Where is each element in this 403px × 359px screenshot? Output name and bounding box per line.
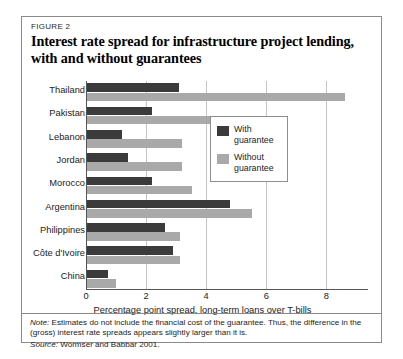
figure-title: Interest rate spread for infrastructure … (31, 33, 376, 66)
chart-legend: With guarantee Without guarantee (210, 116, 288, 182)
chart-row: Côte d'Ivoire (22, 244, 383, 267)
chart-row: China (22, 267, 383, 290)
chart-row: Thailand (22, 81, 383, 104)
bar-with-guarantee (87, 153, 128, 162)
x-tick-label-0: 0 (76, 291, 96, 301)
footer-divider (22, 313, 381, 314)
legend-label-without-line1: Without (234, 152, 264, 162)
legend-label-without: Without guarantee (234, 152, 292, 173)
category-label: China (0, 271, 85, 281)
category-label: Côte d'Ivoire (0, 248, 85, 258)
figure-title-line-1: Interest rate spread for infrastructure … (31, 33, 354, 49)
chart-plot-area: ThailandPakistanLebanonJordanMoroccoArge… (22, 79, 383, 314)
chart-row: Lebanon (22, 128, 383, 151)
chart-row: Jordan (22, 151, 383, 174)
bar-without-guarantee (87, 209, 252, 218)
category-label: Morocco (0, 178, 85, 188)
figure-number: FIGURE 2 (31, 22, 70, 31)
x-tick-label-6: 6 (256, 291, 276, 301)
figure-title-line-2: with and without guarantees (31, 50, 376, 67)
category-label: Argentina (0, 202, 85, 212)
chart-row: Pakistan (22, 104, 383, 127)
x-tick-label-4: 4 (196, 291, 216, 301)
category-label: Thailand (0, 85, 85, 95)
bar-without-guarantee (87, 279, 116, 288)
source-text: Wormser and Babbar 2001. (58, 340, 160, 349)
figure-panel: FIGURE 2 Interest rate spread for infras… (21, 16, 382, 343)
x-axis-line (86, 289, 368, 290)
note-label: Note: (30, 318, 49, 327)
bar-with-guarantee (87, 223, 165, 232)
category-label: Lebanon (0, 132, 85, 142)
legend-swatch-icon-with (217, 126, 229, 136)
category-label: Philippines (0, 225, 85, 235)
x-tick-label-2: 2 (136, 291, 156, 301)
legend-swatch-icon-without (217, 154, 229, 164)
chart-row: Argentina (22, 198, 383, 221)
note-text: Estimates do not include the financial c… (30, 318, 361, 337)
bar-with-guarantee (87, 200, 230, 209)
bar-without-guarantee (87, 162, 182, 171)
legend-label-with-line2: guarantee (234, 135, 274, 145)
chart-row: Philippines (22, 221, 383, 244)
bar-without-guarantee (87, 93, 345, 102)
legend-label-with: With guarantee (234, 124, 292, 145)
bar-without-guarantee (87, 256, 180, 265)
bar-without-guarantee (87, 116, 227, 125)
figure-footnotes: Note: Estimates do not include the finan… (30, 318, 374, 350)
bar-with-guarantee (87, 177, 152, 186)
legend-label-without-line2: guarantee (234, 163, 274, 173)
note-line: Note: Estimates do not include the finan… (30, 318, 374, 339)
source-line: Source: Wormser and Babbar 2001. (30, 340, 374, 350)
bar-with-guarantee (87, 246, 173, 255)
bar-with-guarantee (87, 130, 122, 139)
bar-with-guarantee (87, 107, 152, 116)
legend-label-with-line1: With (234, 124, 252, 134)
bar-without-guarantee (87, 139, 182, 148)
x-tick-label-8: 8 (316, 291, 336, 301)
chart-row: Morocco (22, 174, 383, 197)
bar-with-guarantee (87, 83, 179, 92)
bar-without-guarantee (87, 186, 192, 195)
category-label: Jordan (0, 155, 85, 165)
bar-without-guarantee (87, 232, 180, 241)
bar-with-guarantee (87, 270, 108, 279)
source-label: Source: (30, 340, 58, 349)
category-label: Pakistan (0, 108, 85, 118)
